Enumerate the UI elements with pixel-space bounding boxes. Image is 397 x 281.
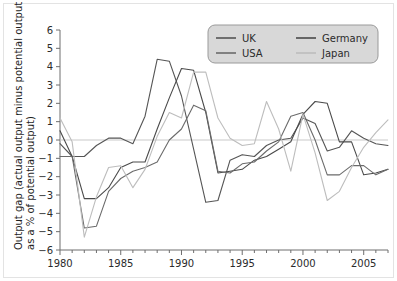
y-axis-title-line1: Output gap (actual output minus potentia… xyxy=(13,2,24,250)
chart-legend: UKGermanyUSAJapan xyxy=(208,25,378,63)
x-tick-label: 2005 xyxy=(351,258,376,269)
x-axis-ticks: 198019851990199520002005 xyxy=(47,250,388,269)
series-line-uk xyxy=(60,59,388,202)
y-axis-title: Output gap (actual output minus potentia… xyxy=(13,2,36,250)
output-gap-line-chart: Output gap (actual output minus potentia… xyxy=(0,0,397,281)
y-tick-label: 6 xyxy=(47,25,53,36)
x-tick-label: 1995 xyxy=(229,258,254,269)
y-tick-label: 3 xyxy=(47,80,53,91)
legend-label-usa: USA xyxy=(242,48,263,59)
x-tick-label: 1980 xyxy=(47,258,72,269)
y-tick-label: 0 xyxy=(47,135,53,146)
y-tick-label: −1 xyxy=(38,153,53,164)
data-series-group xyxy=(60,59,388,237)
y-tick-label: −2 xyxy=(38,171,53,182)
y-tick-label: −3 xyxy=(38,190,53,201)
legend-label-uk: UK xyxy=(242,33,256,44)
chart-figure: Output gap (actual output minus potentia… xyxy=(0,0,397,281)
series-line-usa xyxy=(60,105,388,228)
y-tick-label: −4 xyxy=(38,208,53,219)
y-tick-label: −6 xyxy=(38,245,53,256)
series-line-japan xyxy=(60,72,388,237)
x-tick-label: 1985 xyxy=(108,258,133,269)
y-tick-label: 1 xyxy=(47,116,53,127)
y-axis-ticks: −6−5−4−3−2−10123456 xyxy=(38,25,60,256)
y-tick-label: 4 xyxy=(47,61,53,72)
y-axis-title-line2: as a % of potential output) xyxy=(25,116,36,250)
y-tick-label: 2 xyxy=(47,98,53,109)
y-tick-label: −5 xyxy=(38,226,53,237)
x-tick-label: 2000 xyxy=(290,258,315,269)
legend-label-japan: Japan xyxy=(321,48,350,59)
legend-background xyxy=(208,25,378,63)
x-tick-label: 1990 xyxy=(169,258,194,269)
y-tick-label: 5 xyxy=(47,43,53,54)
legend-label-germany: Germany xyxy=(322,33,368,44)
